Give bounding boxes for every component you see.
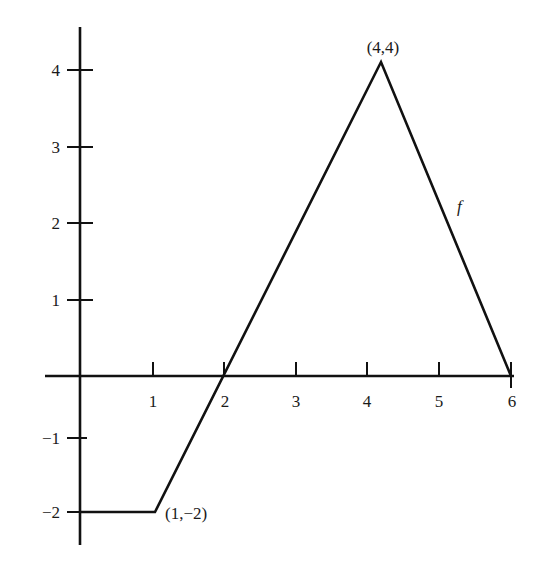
x-tick-label: 2	[221, 392, 230, 411]
x-tick-label: 4	[363, 392, 372, 411]
function-f-graph	[80, 62, 511, 512]
x-tick-label: 3	[292, 392, 301, 411]
corner-point-label: (1,−2)	[165, 504, 207, 523]
x-tick-label: 6	[508, 392, 517, 411]
y-tick-label: −1	[42, 429, 60, 448]
peak-point-label: (4,4)	[367, 38, 400, 57]
y-tick-label: 1	[52, 291, 61, 310]
function-name-label: f	[457, 197, 464, 216]
y-tick-label: −2	[42, 503, 60, 522]
y-tick-label: 3	[52, 138, 61, 157]
y-tick-label: 2	[52, 214, 61, 233]
graph-canvas: 1 2 3 4 5 6 4 3 2 1 −1 −2 (4,4) (1,−2) f	[0, 0, 543, 569]
y-tick-label: 4	[52, 61, 61, 80]
x-tick-label: 5	[435, 392, 444, 411]
x-tick-label: 1	[149, 392, 158, 411]
